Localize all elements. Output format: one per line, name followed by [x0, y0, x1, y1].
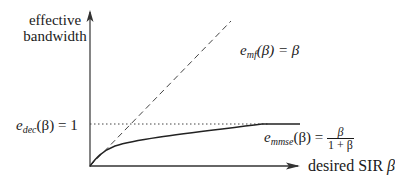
y-axis-label-line2: bandwidth [20, 28, 90, 44]
mmse-annotation: emmse(β) = β1 + β [264, 126, 354, 151]
x-axis-label: desired SIR β [308, 158, 395, 174]
mmse-subscript: mmse [271, 136, 294, 147]
mf-line [90, 21, 231, 166]
dec-expression: (β) = 1 [37, 117, 78, 133]
mf-annotation: emf(β) = β [240, 42, 299, 63]
mmse-symbol: e [264, 129, 271, 145]
mmse-fraction: β1 + β [327, 126, 354, 151]
mmse-denominator: 1 + β [327, 139, 354, 151]
y-axis-label: effective bandwidth [20, 12, 90, 44]
x-axis-label-symbol: β [387, 157, 395, 174]
dec-annotation: edec(β) = 1 [16, 117, 78, 138]
dec-symbol: e [16, 117, 23, 133]
mmse-expression: (β) = [293, 129, 327, 145]
mf-expression: (β) = β [257, 42, 300, 58]
x-axis-label-text: desired SIR [308, 157, 387, 174]
y-axis-label-line1: effective [20, 12, 90, 28]
mf-symbol: e [240, 42, 247, 58]
dec-subscript: dec [23, 124, 37, 135]
mf-subscript: mf [247, 49, 257, 60]
